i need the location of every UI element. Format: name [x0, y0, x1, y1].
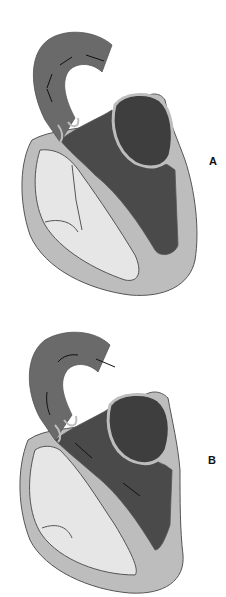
- panel-label-a: A: [209, 155, 217, 167]
- panel-a: A: [0, 0, 226, 300]
- heart-diagram-b: [0, 300, 226, 597]
- heart-diagram-a: [0, 0, 226, 300]
- panel-b: B: [0, 300, 226, 597]
- panel-label-b: B: [208, 454, 216, 466]
